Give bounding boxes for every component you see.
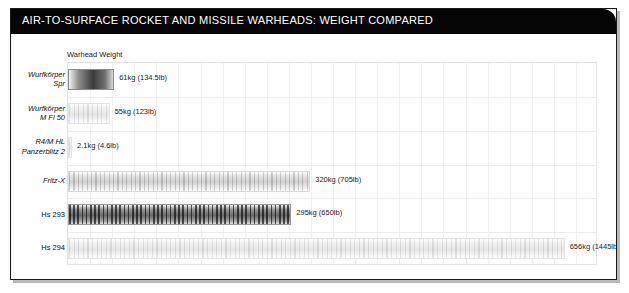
y-axis-label: Fritz-X <box>11 176 65 185</box>
chart-row: 656kg (1445lb) <box>68 232 596 266</box>
chart-row: 320kg (705lb) <box>68 165 596 199</box>
bar-4[interactable] <box>68 171 310 192</box>
bar-1[interactable] <box>68 69 114 90</box>
page-title: AIR-TO-SURFACE ROCKET AND MISSILE WARHEA… <box>22 14 433 26</box>
bar-value-label: 295kg (650lb) <box>296 208 342 217</box>
y-axis-label: WurfkörperSpr <box>11 70 65 88</box>
bar-value-label: 656kg (1445lb) <box>570 242 616 251</box>
bar-value-label: 61kg (134.5lb) <box>119 73 167 82</box>
bar-value-label: 2.1kg (4.6lb) <box>77 141 119 150</box>
y-axis-label: WurfkörperM Fl 50 <box>11 104 65 122</box>
y-axis-labels: WurfkörperSprWurfkörperM Fl 50R4/M HLPan… <box>11 62 65 265</box>
chart-row: 55kg (123lb) <box>68 97 596 131</box>
bar-3[interactable] <box>68 137 72 158</box>
series-label: Warhead Weight <box>67 50 122 59</box>
chart-row: 61kg (134.5lb) <box>68 63 596 97</box>
y-axis-label: Hs 294 <box>11 243 65 252</box>
y-axis-label: Hs 293 <box>11 210 65 219</box>
chart-row: 2.1kg (4.6lb) <box>68 131 596 165</box>
bar-6[interactable] <box>68 238 565 259</box>
chart-canvas: Warhead Weight WurfkörperSprWurfkörperM … <box>11 35 616 279</box>
plot-area: 61kg (134.5lb)55kg (123lb)2.1kg (4.6lb)3… <box>67 62 597 265</box>
screenshot-root: AIR-TO-SURFACE ROCKET AND MISSILE WARHEA… <box>0 0 629 293</box>
bar-value-label: 55kg (123lb) <box>115 107 157 116</box>
chart-title-bar: AIR-TO-SURFACE ROCKET AND MISSILE WARHEA… <box>11 9 616 34</box>
chart-row: 295kg (650lb) <box>68 198 596 232</box>
bar-value-label: 320kg (705lb) <box>315 175 361 184</box>
y-axis-label: R4/M HLPanzerblitz 2 <box>11 137 65 155</box>
bar-5[interactable] <box>68 204 291 225</box>
bar-2[interactable] <box>68 103 110 124</box>
